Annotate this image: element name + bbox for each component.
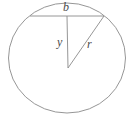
apothem-label-y: y bbox=[57, 36, 62, 48]
chord-label-b: b bbox=[63, 1, 69, 13]
radius-label-r: r bbox=[87, 38, 92, 50]
diagram-canvas bbox=[0, 0, 132, 123]
apothem-line-y bbox=[67, 16, 68, 68]
circle-chord-diagram: b y r bbox=[0, 0, 132, 123]
radius-line-r bbox=[68, 16, 104, 68]
